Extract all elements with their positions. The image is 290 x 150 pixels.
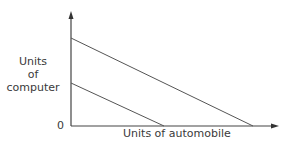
x-axis-arrow-icon [271, 124, 279, 129]
inner-budget-line [71, 83, 164, 126]
y-axis-label: Units of computer [6, 55, 60, 94]
y-axis-arrow-icon [69, 11, 74, 19]
y-label-line: Units [6, 55, 60, 68]
y-label-line: of [6, 68, 60, 81]
outer-budget-line [71, 38, 253, 126]
y-label-line: computer [6, 81, 60, 94]
x-axis-label: Units of automobile [123, 127, 231, 140]
origin-label: 0 [57, 119, 64, 132]
